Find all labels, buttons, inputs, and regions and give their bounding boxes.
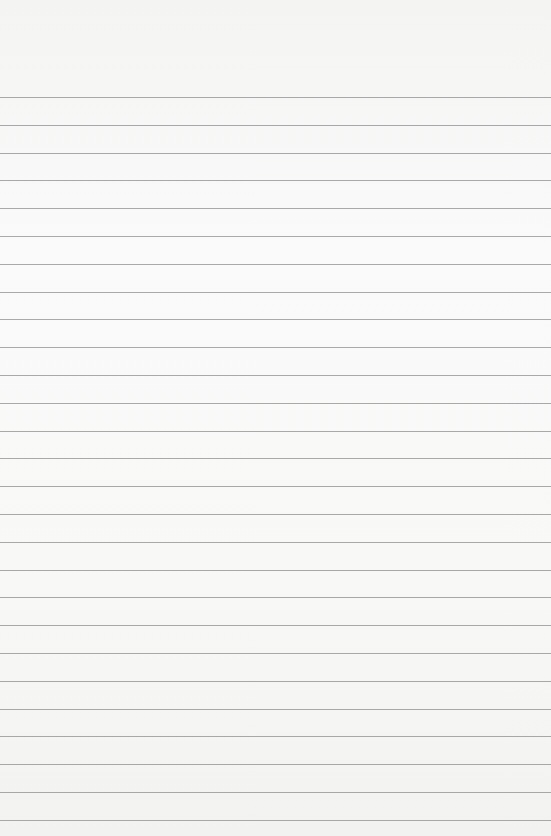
ruled-line <box>0 709 551 710</box>
ruled-line <box>0 542 551 543</box>
ruled-line <box>0 431 551 432</box>
ruled-line <box>0 681 551 682</box>
ruled-line <box>0 125 551 126</box>
ruled-line <box>0 458 551 459</box>
ruled-line <box>0 514 551 515</box>
ruled-line <box>0 208 551 209</box>
lined-paper <box>0 0 551 836</box>
ruled-line <box>0 180 551 181</box>
ruled-line <box>0 292 551 293</box>
ruled-line <box>0 820 551 821</box>
ruled-line <box>0 347 551 348</box>
ruled-line <box>0 264 551 265</box>
ruled-line <box>0 97 551 98</box>
ruled-line <box>0 653 551 654</box>
ruled-line <box>0 597 551 598</box>
ruled-line <box>0 153 551 154</box>
ruled-line <box>0 792 551 793</box>
ruled-line <box>0 236 551 237</box>
ruled-line <box>0 764 551 765</box>
ruled-line <box>0 403 551 404</box>
ruled-line <box>0 736 551 737</box>
ruled-line <box>0 486 551 487</box>
ruled-line <box>0 375 551 376</box>
ruled-line <box>0 319 551 320</box>
ruled-line <box>0 570 551 571</box>
ruled-line <box>0 625 551 626</box>
